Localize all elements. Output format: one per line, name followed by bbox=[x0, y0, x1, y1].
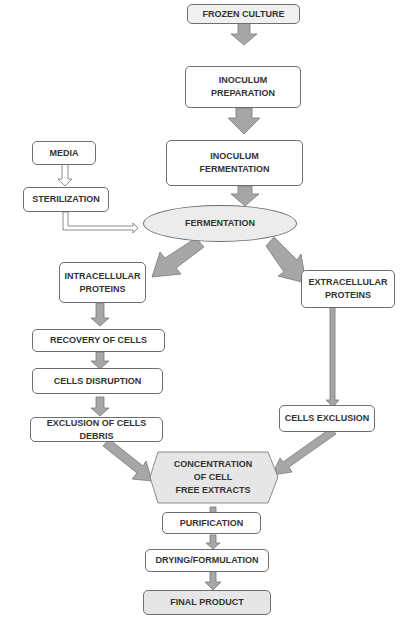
node-media: MEDIA bbox=[32, 141, 96, 165]
arrow-down-icon bbox=[228, 108, 260, 134]
arrow-down-icon bbox=[91, 352, 109, 369]
flowchart-canvas: FROZEN CULTURE INOCULUM PREPARATION INOC… bbox=[0, 0, 412, 633]
arrow-down-icon bbox=[91, 303, 109, 326]
arrow-down-icon bbox=[326, 307, 339, 407]
node-cells-disruption: CELLS DISRUPTION bbox=[32, 368, 163, 394]
node-frozen-culture: FROZEN CULTURE bbox=[187, 4, 300, 24]
arrow-diagonal-icon bbox=[266, 237, 306, 283]
node-fermentation: FERMENTATION bbox=[143, 205, 297, 242]
arrow-hollow-down-icon bbox=[58, 164, 72, 186]
node-extracellular-proteins: EXTRACELLULAR PROTEINS bbox=[301, 270, 395, 308]
node-intracellular-proteins: INTRACELLULAR PROTEINS bbox=[59, 262, 146, 303]
node-inoculum-fermentation: INOCULUM FERMENTATION bbox=[166, 140, 303, 186]
node-drying-formulation: DRYING/FORMULATION bbox=[145, 549, 269, 572]
arrow-down-icon bbox=[206, 535, 220, 549]
node-sterilization: STERILIZATION bbox=[23, 187, 109, 212]
node-exclusion-of-cells-debris: EXCLUSION OF CELLS DEBRIS bbox=[30, 417, 163, 442]
arrow-down-icon bbox=[205, 571, 221, 590]
node-inoculum-preparation: INOCULUM PREPARATION bbox=[185, 66, 301, 108]
node-purification: PURIFICATION bbox=[162, 512, 261, 534]
arrow-down-icon bbox=[231, 23, 257, 45]
arrow-diagonal-icon bbox=[152, 238, 204, 277]
node-final-product: FINAL PRODUCT bbox=[143, 590, 271, 615]
arrow-down-icon bbox=[231, 186, 259, 206]
node-cells-exclusion: CELLS EXCLUSION bbox=[279, 405, 375, 432]
arrow-hollow-bent-icon bbox=[63, 212, 138, 233]
arrow-down-icon bbox=[91, 397, 109, 416]
node-recovery-of-cells: RECOVERY OF CELLS bbox=[32, 329, 165, 352]
arrow-diagonal-icon bbox=[272, 428, 336, 475]
arrow-diagonal-icon bbox=[103, 439, 152, 481]
node-concentration: CONCENTRATION OF CELL FREE EXTRACTS bbox=[152, 452, 274, 503]
